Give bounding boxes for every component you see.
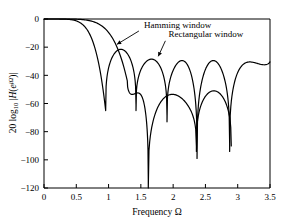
figure-container: 00.511.522.533.50−20−40−60−80−100−120 Ha… bbox=[0, 0, 294, 224]
y-tick-label: −120 bbox=[20, 183, 39, 193]
y-axis-title: 20 log10 |H(ejΩ)| bbox=[7, 73, 19, 134]
y-tick-label: −80 bbox=[25, 127, 40, 137]
y-tick-label: 0 bbox=[35, 14, 40, 24]
x-tick-label: 2.5 bbox=[200, 192, 212, 202]
x-axis-title: Frequency Ω bbox=[132, 207, 182, 217]
db-magnitude-response-plot: 00.511.522.533.50−20−40−60−80−100−120 Ha… bbox=[0, 0, 294, 224]
y-tick-label: −60 bbox=[25, 99, 40, 109]
x-tick-label: 0 bbox=[42, 192, 47, 202]
y-tick-label: −40 bbox=[25, 71, 40, 81]
x-tick-label: 2 bbox=[171, 192, 176, 202]
x-tick-label: 1 bbox=[106, 192, 111, 202]
x-tick-label: 3.5 bbox=[264, 192, 276, 202]
svg-text:20 log10 |H(ejΩ)|: 20 log10 |H(ejΩ)| bbox=[7, 73, 19, 134]
curve-hamming-window bbox=[44, 19, 231, 188]
curve-annotations: Hamming windowRectangular window bbox=[117, 20, 244, 56]
x-tick-label: 3 bbox=[235, 192, 240, 202]
curve-rectangular-window bbox=[44, 19, 270, 158]
axis-ticks bbox=[44, 19, 270, 188]
annotation-label: Rectangular window bbox=[169, 29, 244, 39]
data-curves bbox=[44, 19, 270, 188]
y-tick-label: −20 bbox=[25, 42, 40, 52]
axes-frame bbox=[44, 19, 270, 188]
y-tick-label: −100 bbox=[20, 155, 39, 165]
x-tick-label: 1.5 bbox=[135, 192, 147, 202]
x-tick-label: 0.5 bbox=[71, 192, 83, 202]
